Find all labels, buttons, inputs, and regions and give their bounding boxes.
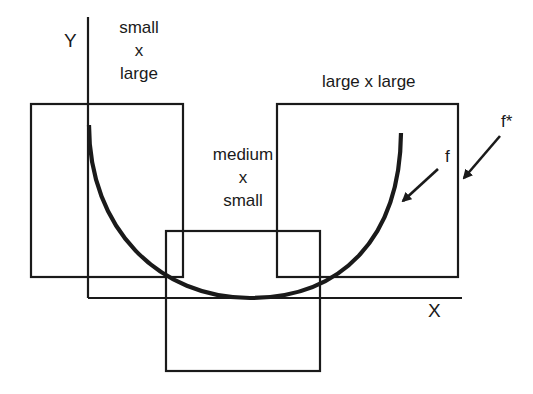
y-axis-label: Y: [64, 29, 77, 52]
x-axis-label: X: [428, 299, 441, 322]
diagram-canvas: Y X small x large medium x small large x…: [0, 0, 533, 394]
label-line: small: [102, 16, 176, 39]
label-line: x: [102, 39, 176, 62]
curve-f-label: f: [445, 145, 450, 168]
outer-f-star-label: f*: [501, 110, 512, 133]
label-line: small: [196, 189, 290, 212]
arrow-f-icon: [403, 169, 438, 201]
label-medium-x-small: medium x small: [196, 143, 290, 212]
label-line: medium: [196, 143, 290, 166]
box-medium-x-small: [166, 231, 320, 371]
arrow-f-star-icon: [464, 136, 500, 178]
box-small-x-large: [31, 104, 183, 277]
label-large-x-large: large x large: [322, 70, 416, 93]
label-line: large: [102, 62, 176, 85]
box-large-x-large: [277, 104, 458, 277]
label-line: x: [196, 166, 290, 189]
label-small-x-large: small x large: [102, 16, 176, 85]
